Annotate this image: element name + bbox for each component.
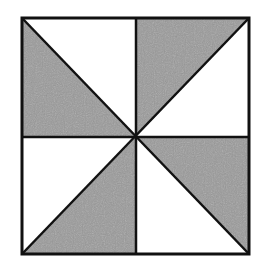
pinwheel-diagram	[0, 0, 256, 264]
outline-lines	[22, 18, 249, 254]
